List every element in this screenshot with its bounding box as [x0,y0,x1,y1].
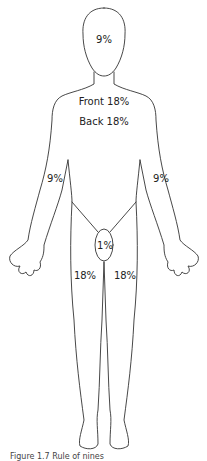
trunk-back-percent-label: Back 18% [79,116,129,127]
figure-caption: Figure 1.7 Rule of nines [10,452,104,461]
right-leg-percent-label: 18% [74,270,96,281]
groin-lines [72,202,136,232]
left-arm-percent-label: 9% [153,173,169,184]
trunk-front-percent-label: Front 18% [79,96,130,107]
right-arm-percent-label: 9% [47,173,63,184]
perineum-percent-label: 1% [97,240,113,251]
head-percent-label: 9% [96,34,112,45]
left-leg-percent-label: 18% [114,270,136,281]
body-outline-figure [0,0,207,461]
